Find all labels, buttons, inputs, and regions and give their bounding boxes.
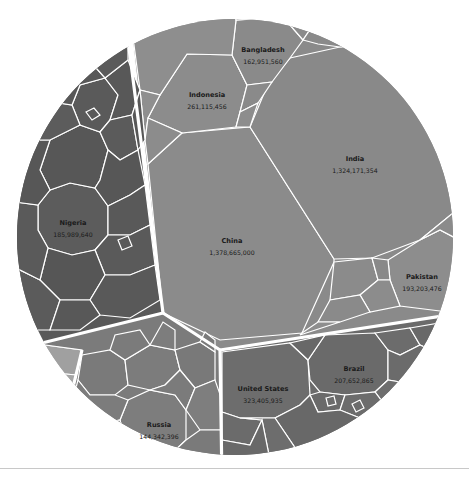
label-china-value: 1,378,665,000 <box>209 249 254 256</box>
voronoi-treemap-chart: China 1,378,665,000 India 1,324,171,354 … <box>0 0 469 483</box>
oceania-small-cell <box>44 372 76 400</box>
label-indonesia-name: Indonesia <box>189 91 225 99</box>
europe-small-cell <box>90 420 125 460</box>
americas-small-cell <box>260 450 350 483</box>
label-bangladesh-value: 162,951,560 <box>243 58 282 65</box>
label-india-name: India <box>346 155 365 163</box>
label-brazil-value: 207,652,865 <box>334 377 373 384</box>
label-russia-name: Russia <box>147 421 171 429</box>
region-europe <box>0 313 222 483</box>
label-china-name: China <box>222 237 243 245</box>
label-brazil-name: Brazil <box>343 365 364 373</box>
label-united-states-value: 323,405,935 <box>243 397 282 404</box>
label-pakistan-name: Pakistan <box>406 273 438 281</box>
label-nigeria-name: Nigeria <box>60 219 87 227</box>
region-oceania <box>0 344 82 420</box>
label-united-states-name: United States <box>238 385 289 393</box>
label-indonesia-value: 261,115,456 <box>187 103 226 110</box>
americas-small-cell <box>326 396 336 406</box>
asia-small-cell <box>303 0 469 47</box>
label-india-value: 1,324,171,354 <box>332 167 377 174</box>
label-nigeria-value: 185,989,640 <box>53 231 92 238</box>
americas-small-cell <box>350 410 420 450</box>
americas-small-cell <box>375 380 430 412</box>
bottom-divider <box>0 468 469 469</box>
region-asia <box>128 0 469 350</box>
label-pakistan-value: 193,203,476 <box>402 285 441 292</box>
label-bangladesh-name: Bangladesh <box>241 46 285 54</box>
label-russia-value: 144,342,396 <box>139 433 178 440</box>
